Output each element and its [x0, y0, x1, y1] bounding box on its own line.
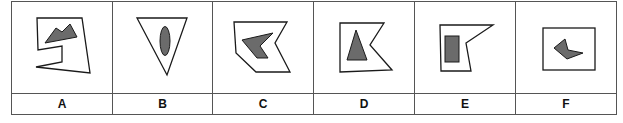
option-a-label[interactable]: A — [12, 94, 112, 114]
option-d-label[interactable]: D — [314, 94, 414, 114]
option-a-figure[interactable] — [36, 18, 90, 73]
option-a-outer-shape — [36, 18, 90, 73]
option-c-outer-shape — [234, 22, 290, 72]
option-b-figure[interactable] — [137, 18, 187, 75]
option-d-figure[interactable] — [340, 23, 392, 72]
option-e-label[interactable]: E — [415, 94, 515, 114]
option-f-outer-rectangle — [543, 28, 595, 70]
option-b-label[interactable]: B — [113, 94, 212, 114]
option-e-inner-rectangle — [445, 36, 459, 62]
option-c-label[interactable]: C — [213, 94, 313, 114]
option-f-figure[interactable] — [543, 28, 595, 70]
option-f-label[interactable]: F — [516, 94, 616, 114]
option-c-figure[interactable] — [234, 22, 290, 72]
answer-options-figure: A B C D E F — [0, 0, 623, 123]
option-d-outer-shape — [340, 23, 392, 72]
option-b-inner-ellipse — [160, 27, 170, 56]
option-e-figure[interactable] — [440, 25, 493, 71]
